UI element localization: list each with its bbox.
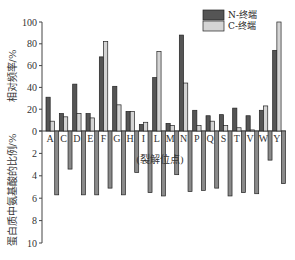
y-tick-label: 40 <box>27 82 37 93</box>
bar-c-terminal <box>224 126 228 131</box>
y-tick-label: 0 <box>32 126 37 137</box>
bar-n-terminal <box>153 78 157 131</box>
bar-c-terminal <box>144 122 148 131</box>
bar-c-terminal <box>250 130 254 131</box>
bar-n-terminal <box>193 110 197 131</box>
bar-c-terminal <box>197 126 201 131</box>
y-tick-label: 4 <box>32 170 37 181</box>
bar-abundance <box>68 131 72 169</box>
bar-n-terminal <box>179 35 183 131</box>
bar-n-terminal <box>46 97 50 131</box>
bar-c-terminal <box>117 105 121 131</box>
bar-c-terminal <box>50 121 54 131</box>
bar-abundance <box>215 131 219 188</box>
bar-c-terminal <box>130 111 134 131</box>
bar-n-terminal <box>206 116 210 131</box>
category-label: S <box>221 133 227 144</box>
bar-c-terminal <box>277 22 281 131</box>
y-tick-label: 8 <box>32 215 37 226</box>
bar-abundance <box>201 131 205 190</box>
bar-c-terminal <box>90 118 94 131</box>
bar-abundance <box>55 131 59 195</box>
bar-n-terminal <box>139 124 143 131</box>
category-label: E <box>87 133 93 144</box>
y-tick-label: 100 <box>22 17 37 28</box>
bar-n-terminal <box>59 114 63 131</box>
bar-c-terminal <box>237 128 241 131</box>
category-label: L <box>154 133 160 144</box>
y-tick-label: 80 <box>27 38 37 49</box>
category-label: M <box>166 133 175 144</box>
bar-abundance <box>108 131 112 188</box>
legend-label-c: C-终端 <box>228 20 256 31</box>
category-label: Q <box>207 133 215 144</box>
bar-n-terminal <box>86 114 90 131</box>
category-label: G <box>113 133 120 144</box>
category-label: P <box>194 133 200 144</box>
bar-chart: 204060801000246810 ACDEFGHILMNPQSTVWY(裂解… <box>0 0 295 260</box>
bar-abundance <box>175 131 179 175</box>
category-label: I <box>142 133 145 144</box>
bar-c-terminal <box>170 126 174 131</box>
bar-n-terminal <box>219 115 223 131</box>
bar-n-terminal <box>99 57 103 131</box>
y-tick-label: 2 <box>32 148 37 159</box>
bar-c-terminal <box>184 83 188 131</box>
bar-abundance <box>268 131 272 160</box>
bar-n-terminal <box>259 110 263 131</box>
bar-c-terminal <box>77 114 81 131</box>
x-axis-label: (裂解位点) <box>136 153 184 165</box>
legend-swatch-c <box>203 21 224 31</box>
category-label: V <box>247 133 255 144</box>
bar-abundance <box>241 131 245 193</box>
y-axis-label-top: 相对频率/% <box>6 50 18 103</box>
bar-n-terminal <box>246 116 250 131</box>
category-label: T <box>234 133 240 144</box>
bar-c-terminal <box>210 121 214 131</box>
y-tick-label: 6 <box>32 193 37 204</box>
labels: ACDEFGHILMNPQSTVWY(裂解位点)相对频率/%蛋白质中氨基酸的比例… <box>6 50 280 247</box>
y-tick-label: 10 <box>27 238 37 249</box>
bar-n-terminal <box>273 50 277 131</box>
bar-n-terminal <box>166 123 170 131</box>
bar-n-terminal <box>233 108 237 131</box>
legend: N-终端C-终端 <box>203 9 257 31</box>
bar-abundance <box>281 131 285 184</box>
bar-c-terminal <box>64 117 68 131</box>
category-label: H <box>127 133 134 144</box>
category-label: C <box>60 133 67 144</box>
category-label: F <box>101 133 107 144</box>
category-label: A <box>47 133 55 144</box>
bar-n-terminal <box>73 84 77 131</box>
category-label: Y <box>273 133 280 144</box>
bar-c-terminal <box>104 42 108 131</box>
bar-abundance <box>95 131 99 195</box>
legend-label-n: N-终端 <box>228 9 257 20</box>
bars <box>46 22 285 196</box>
bar-abundance <box>135 131 139 172</box>
bar-c-terminal <box>264 106 268 131</box>
y-tick-label: 60 <box>27 60 37 71</box>
category-label: W <box>259 133 269 144</box>
bar-abundance <box>188 131 192 191</box>
bar-abundance <box>121 131 125 195</box>
bar-c-terminal <box>157 51 161 131</box>
bar-n-terminal <box>113 86 117 131</box>
y-axis-label-bottom: 蛋白质中氨基酸的比例/% <box>6 134 18 247</box>
legend-swatch-n <box>203 10 224 20</box>
category-label: D <box>73 133 80 144</box>
bar-abundance <box>228 131 232 196</box>
bar-n-terminal <box>126 111 130 131</box>
bar-abundance <box>81 131 85 195</box>
category-label: N <box>180 133 187 144</box>
y-tick-label: 20 <box>27 104 37 115</box>
